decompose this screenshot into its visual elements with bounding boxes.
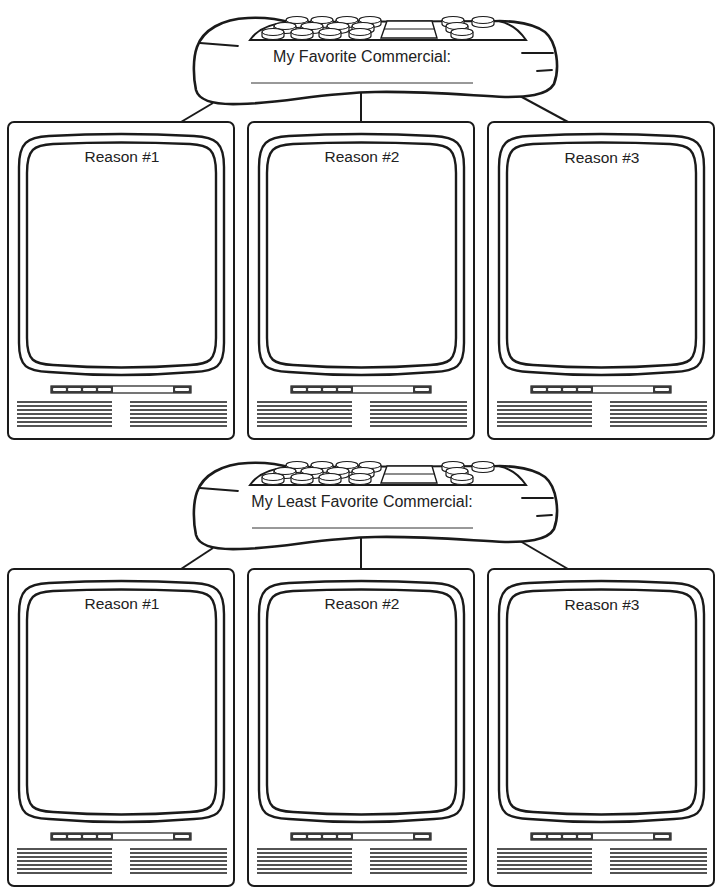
tv-reason-2: Reason #2 <box>248 569 474 886</box>
television-icon <box>488 569 714 886</box>
tv-reason-3: Reason #3 <box>488 122 714 439</box>
reason-label: Reason #3 <box>565 149 640 166</box>
tv-reason-1: Reason #1 <box>8 569 234 886</box>
section-least-favorite-commercial: My Least Favorite Commercial: Reason #1 … <box>8 462 714 887</box>
section-favorite-commercial: My Favorite Commercial: Reason #1 Reason… <box>8 17 714 440</box>
reason-label: Reason #2 <box>325 595 400 612</box>
television-icon <box>8 122 234 439</box>
tv-reason-1: Reason #1 <box>8 122 234 439</box>
reason-label: Reason #3 <box>565 596 640 613</box>
television-icon <box>488 122 714 439</box>
reason-label: Reason #1 <box>85 595 160 612</box>
reason-label: Reason #2 <box>325 148 400 165</box>
television-icon <box>248 569 474 886</box>
tv-reason-2: Reason #2 <box>248 122 474 439</box>
favorite-commercial-prompt: My Favorite Commercial: <box>273 48 451 65</box>
television-icon <box>248 122 474 439</box>
least-favorite-commercial-prompt: My Least Favorite Commercial: <box>251 493 472 510</box>
television-icon <box>8 569 234 886</box>
graphic-organizer-worksheet: My Favorite Commercial: Reason #1 Reason… <box>0 0 721 896</box>
reason-label: Reason #1 <box>85 148 160 165</box>
tv-reason-3: Reason #3 <box>488 569 714 886</box>
